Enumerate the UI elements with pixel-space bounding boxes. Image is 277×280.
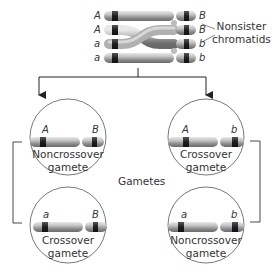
allele-label: A — [42, 125, 49, 135]
allele-label: a — [94, 53, 100, 63]
top-chromatids — [104, 11, 196, 63]
allele-label: B — [92, 210, 99, 220]
gamete-word: gamete — [168, 161, 244, 174]
gamete-chromosome-bottom-right — [168, 222, 244, 232]
gamete-chromosome-top-right — [168, 137, 244, 147]
allele-label: B — [199, 11, 206, 21]
gamete-label-top-left: Noncrossover gamete — [30, 148, 106, 174]
allele-label: B — [199, 25, 206, 35]
gamete-chromosome-bottom-left — [33, 222, 107, 232]
allele-label: B — [92, 125, 99, 135]
gamete-label-top-right: Crossover gamete — [168, 148, 244, 174]
allele-label: b — [199, 39, 205, 49]
chromatid-4 — [104, 53, 196, 63]
gamete-type: Crossover — [168, 148, 244, 161]
allele-label: b — [231, 210, 237, 220]
allele-label: a — [43, 210, 49, 220]
gamete-word: gamete — [168, 247, 244, 260]
gamete-word: gamete — [30, 247, 106, 260]
allele-label: A — [94, 25, 101, 35]
crossing-chromatids — [109, 25, 196, 49]
label-line: Nonsister — [212, 20, 271, 33]
nonsister-chromatids-label: Nonsister chromatids — [212, 20, 271, 46]
allele-label: b — [231, 125, 237, 135]
gamete-chromosome-top-left — [30, 137, 104, 147]
branch-lines — [39, 68, 206, 95]
gamete-type: Noncrossover — [168, 234, 244, 247]
gamete-type: Noncrossover — [30, 148, 106, 161]
gamete-word: gamete — [30, 161, 106, 174]
label-line: chromatids — [212, 33, 271, 46]
gametes-label: Gametes — [118, 175, 165, 187]
allele-label: A — [182, 125, 189, 135]
gamete-type: Crossover — [30, 234, 106, 247]
gamete-label-bottom-right: Noncrossover gamete — [168, 234, 244, 260]
crossing-over-diagram: A B A B a b a b Nonsister chromatids Gam… — [0, 0, 277, 280]
gamete-label-bottom-left: Crossover gamete — [30, 234, 106, 260]
allele-label: a — [94, 39, 100, 49]
allele-label: b — [199, 53, 205, 63]
allele-label: a — [181, 210, 187, 220]
chromatid-1 — [104, 11, 196, 21]
allele-label: A — [94, 11, 101, 21]
